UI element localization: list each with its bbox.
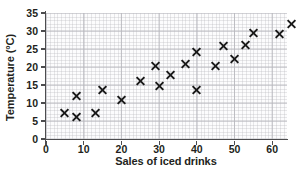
x-axis-tick-label: 50 [220, 144, 250, 155]
data-point [218, 40, 229, 51]
y-axis-tick [41, 30, 45, 31]
data-point [191, 84, 202, 95]
data-point [180, 58, 191, 69]
data-point [229, 53, 240, 64]
x-axis-tick-label: 30 [144, 144, 174, 155]
data-point [71, 111, 82, 122]
data-point [116, 94, 127, 105]
y-axis-tick [41, 120, 45, 121]
data-point [154, 80, 165, 91]
scatter-chart-figure: Temperature (°C) 05 [0, 0, 300, 175]
y-axis-tick-label: 5 [0, 116, 38, 126]
data-point [274, 28, 285, 39]
plot-area [46, 13, 287, 139]
data-point [286, 18, 297, 29]
data-point [191, 46, 202, 57]
y-axis-tick [41, 84, 45, 85]
y-axis-tick [41, 138, 45, 139]
y-axis-tick-label: 15 [0, 80, 38, 90]
y-axis-tick [41, 66, 45, 67]
data-point [97, 84, 108, 95]
data-point [248, 27, 259, 38]
y-axis-tick [41, 48, 45, 49]
data-point [90, 107, 101, 118]
data-point [59, 107, 70, 118]
x-axis-title: Sales of iced drinks [46, 155, 286, 167]
x-axis-tick-label: 20 [106, 144, 136, 155]
data-point [210, 60, 221, 71]
x-axis-tick-label: 60 [257, 144, 287, 155]
data-point [150, 60, 161, 71]
x-axis-tick-label: 40 [182, 144, 212, 155]
y-axis-line [45, 11, 46, 141]
data-point [71, 90, 82, 101]
x-axis-tick-label: 0 [31, 144, 61, 155]
y-axis-tick-label: 20 [0, 62, 38, 72]
data-point [165, 69, 176, 80]
data-point [135, 75, 146, 86]
y-axis-tick-label: 0 [0, 134, 38, 144]
y-axis-tick-label: 30 [0, 26, 38, 36]
y-axis-tick-label: 10 [0, 98, 38, 108]
y-axis-tick [41, 102, 45, 103]
x-axis-line [45, 139, 288, 140]
x-axis-tick-label: 10 [69, 144, 99, 155]
y-axis-tick [41, 12, 45, 13]
data-point [240, 39, 251, 50]
y-axis-tick-label: 35 [0, 8, 38, 18]
y-axis-tick-label: 25 [0, 44, 38, 54]
